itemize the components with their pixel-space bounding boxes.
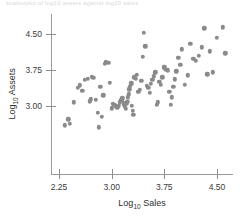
y-tick-mark	[46, 70, 56, 71]
data-point	[223, 51, 227, 55]
data-point	[152, 74, 156, 78]
y-axis-title-base: Log	[7, 105, 17, 120]
x-axis-line	[51, 174, 233, 175]
x-axis-title-subscript: 10	[133, 203, 140, 210]
y-axis-title-subscript: 10	[12, 97, 19, 104]
data-point	[62, 123, 66, 127]
data-point	[80, 88, 84, 92]
data-point	[159, 83, 163, 87]
x-tick-label: 3.75	[149, 182, 179, 192]
x-axis-title: Log10 Sales	[51, 198, 233, 210]
data-point	[138, 87, 142, 91]
data-point	[176, 56, 180, 60]
data-point	[142, 31, 146, 35]
data-point	[208, 49, 212, 53]
data-point	[101, 93, 105, 97]
data-point	[171, 85, 175, 89]
data-point	[215, 36, 219, 40]
data-point	[98, 85, 102, 89]
scatter-plot-figure: scatterplot of log10 assets against log1…	[0, 0, 247, 216]
x-tick-label: 2.25	[44, 182, 74, 192]
data-point	[88, 97, 92, 101]
data-point	[135, 73, 139, 77]
x-tick-mark	[59, 169, 60, 179]
data-point	[174, 69, 178, 73]
data-point	[78, 83, 82, 87]
data-point	[146, 86, 150, 90]
data-point	[91, 75, 95, 79]
y-tick-mark	[46, 106, 56, 107]
data-point	[153, 70, 157, 74]
data-point	[150, 78, 154, 82]
data-point	[173, 77, 177, 81]
x-tick-mark	[217, 169, 218, 179]
data-point	[93, 98, 97, 102]
data-point	[170, 95, 174, 99]
data-point	[156, 100, 160, 104]
data-point	[147, 90, 151, 94]
plot-area: 3.003.754.50 2.253.003.754.50 Log10 Asse…	[0, 0, 247, 216]
x-tick-mark	[112, 169, 113, 179]
data-point	[178, 63, 182, 67]
data-point	[205, 72, 209, 76]
data-point	[167, 89, 171, 93]
data-point	[67, 122, 71, 126]
data-point	[180, 47, 184, 51]
x-axis-title-rest: Sales	[141, 198, 166, 208]
data-point	[166, 68, 170, 72]
data-point	[116, 104, 120, 108]
data-point	[149, 82, 153, 86]
data-point	[220, 25, 224, 29]
data-point	[124, 107, 128, 111]
data-point	[168, 103, 172, 107]
data-point	[197, 54, 201, 58]
data-point	[100, 114, 104, 118]
x-tick-mark	[164, 169, 165, 179]
data-point	[140, 55, 144, 59]
data-point	[188, 41, 192, 45]
data-point	[106, 61, 110, 65]
data-point	[182, 83, 186, 87]
data-point	[131, 112, 135, 116]
x-tick-label: 4.50	[202, 182, 232, 192]
data-point	[130, 104, 134, 108]
data-point	[199, 45, 203, 49]
data-point	[72, 100, 76, 104]
data-point	[202, 26, 206, 30]
x-axis-title-base: Log	[118, 198, 133, 208]
y-tick-mark	[46, 34, 56, 35]
data-point	[107, 81, 111, 85]
data-point	[194, 59, 198, 63]
data-point	[97, 125, 101, 129]
data-point	[125, 99, 129, 103]
data-point	[211, 70, 215, 74]
data-point	[139, 79, 143, 83]
y-tick-label: 4.50	[12, 29, 42, 39]
x-tick-label: 3.00	[97, 182, 127, 192]
data-point	[133, 76, 137, 80]
y-axis-line	[51, 14, 52, 174]
data-point	[126, 92, 130, 96]
data-point	[160, 75, 164, 79]
data-point	[143, 44, 147, 48]
y-axis-title: Log10 Assets	[7, 49, 19, 139]
data-point	[185, 73, 189, 77]
y-axis-title-rest: Assets	[7, 68, 17, 97]
data-point	[129, 81, 133, 85]
